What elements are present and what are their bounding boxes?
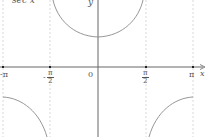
- curve-left-branch: [3, 97, 47, 137]
- tick-label-neg-half-pi: π 2: [47, 70, 54, 85]
- curve-right-branch: [149, 97, 193, 137]
- frac-denominator: 2: [47, 78, 54, 85]
- y-axis-label: y: [88, 0, 93, 7]
- x-axis-label: x: [200, 70, 205, 78]
- frac-denominator: 2: [142, 78, 149, 85]
- secant-plot: [0, 0, 208, 137]
- tick-label-half-pi: π 2: [142, 70, 149, 85]
- tick-label-zero: 0: [88, 71, 93, 79]
- chart-title: sec x: [12, 0, 35, 5]
- tick-label-neg-half-pi-sign: -: [43, 74, 46, 82]
- tick-label-neg-pi: -π: [0, 71, 8, 79]
- tick-label-pi: π: [189, 71, 194, 79]
